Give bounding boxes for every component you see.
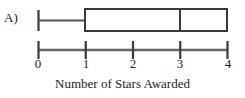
- axis-tick-label-4: 4: [216, 56, 240, 72]
- axis-tick-label-3: 3: [168, 56, 192, 72]
- axis-caption: Number of Stars Awarded: [0, 76, 245, 92]
- axis-tick-label-1: 1: [74, 56, 98, 72]
- axis-tick-label-row: 0 1 2 3 4: [0, 56, 245, 74]
- axis-tick-label-2: 2: [121, 56, 145, 72]
- boxplot-figure: A) 0 1 2 3 4 Number of Stars Awarded: [0, 0, 245, 98]
- axis-tick-label-0: 0: [26, 56, 50, 72]
- box-rect: [85, 9, 227, 31]
